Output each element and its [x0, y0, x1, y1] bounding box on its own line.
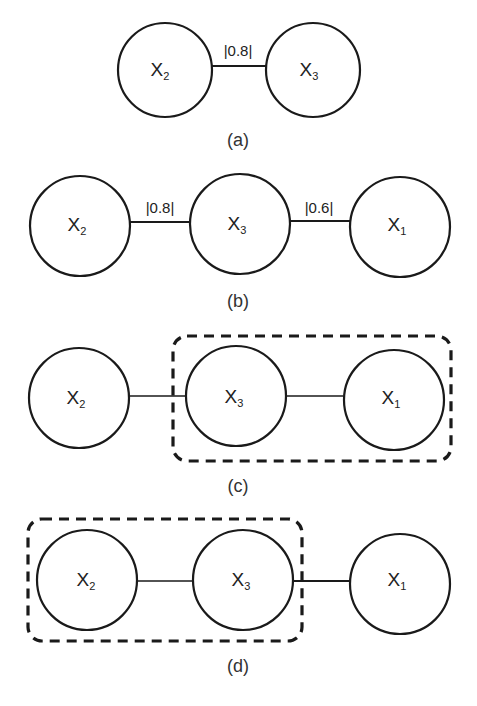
edge-label-x2-x3: |0.8|: [224, 42, 253, 59]
diagram-canvas: |0.8| X2 X3 (a) |0.8| |0.6| X2 X3 X1 (b)…: [0, 0, 477, 706]
caption-a: (a): [227, 130, 249, 150]
edge-label-x3-x1: |0.6|: [305, 199, 334, 216]
caption-b: (b): [227, 291, 249, 311]
panel-c: X2 X3 X1 (c): [29, 336, 451, 496]
caption-c: (c): [228, 476, 249, 496]
caption-d: (d): [227, 656, 249, 676]
panel-b: |0.8| |0.6| X2 X3 X1 (b): [30, 174, 450, 311]
panel-a: |0.8| X2 X3 (a): [118, 23, 360, 150]
panel-d: X2 X3 X1 (d): [28, 519, 450, 676]
edge-label-x2-x3: |0.8|: [146, 199, 175, 216]
